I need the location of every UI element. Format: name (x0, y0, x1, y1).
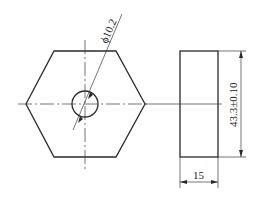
height-arrow-bottom (239, 150, 243, 157)
side-view: 43.3±0.10 15 (180, 51, 246, 188)
hole-diameter-label: ϕ10.2 (98, 17, 119, 45)
front-view: ϕ10.2 (18, 14, 150, 172)
thickness-arrow-right (211, 180, 218, 184)
height-label: 43.3±0.10 (227, 82, 239, 127)
diameter-leader-line (73, 14, 122, 130)
thickness-arrow-left (180, 180, 187, 184)
technical-drawing: ϕ10.2 43.3±0.10 15 (0, 0, 261, 200)
height-arrow-top (239, 51, 243, 58)
thickness-label: 15 (193, 169, 205, 181)
